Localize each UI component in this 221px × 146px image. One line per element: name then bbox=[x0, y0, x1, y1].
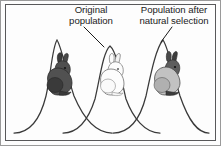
diagram-directional-selection: Original population Population after nat… bbox=[0, 0, 221, 146]
rabbit-dark bbox=[47, 53, 72, 96]
leader-line-original bbox=[84, 27, 104, 47]
label-original-population: Original population bbox=[52, 5, 130, 26]
rabbit-light-gray bbox=[154, 51, 180, 95]
leader-line-after bbox=[161, 27, 172, 42]
label-population-after-natural-selection: Population after natural selection bbox=[130, 5, 218, 26]
leader-lines-group bbox=[84, 27, 172, 47]
